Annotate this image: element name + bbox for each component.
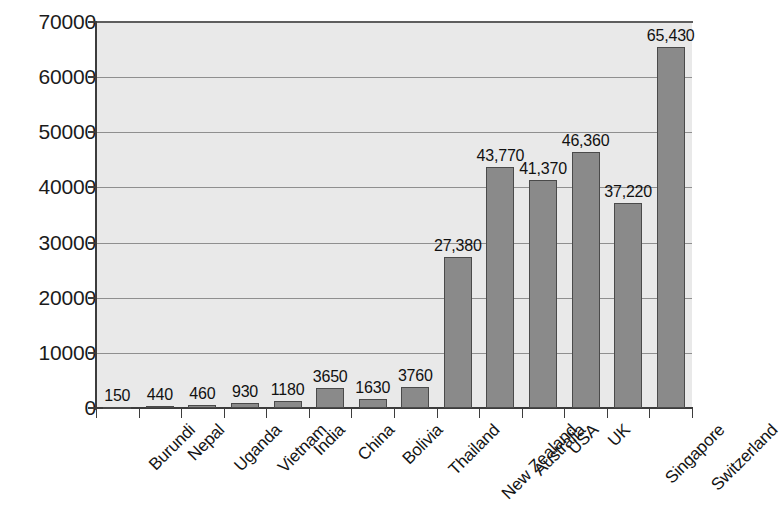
gridline <box>96 77 692 78</box>
bar <box>529 180 557 408</box>
bar <box>657 47 685 408</box>
x-axis-tick-mark <box>394 409 395 418</box>
bar <box>401 387 429 408</box>
x-axis-tick-mark <box>96 409 97 418</box>
gridline <box>96 298 692 299</box>
x-axis-tick-mark <box>564 409 565 418</box>
y-axis-line <box>95 21 97 410</box>
x-axis-label: Bolivia <box>399 421 446 468</box>
x-axis-tick-mark <box>139 409 140 418</box>
bar <box>614 203 642 408</box>
bar <box>146 406 174 408</box>
x-axis-label: Thailand <box>446 421 504 479</box>
x-axis-tick-mark <box>181 409 182 418</box>
x-axis-tick-mark <box>224 409 225 418</box>
x-axis-tick-mark <box>607 409 608 418</box>
bar-value-label: 3760 <box>380 367 450 384</box>
x-axis-tick-mark <box>649 409 650 418</box>
x-axis-tick-mark <box>522 409 523 418</box>
bar-value-label: 41,370 <box>508 160 578 177</box>
plot-top-border <box>96 21 693 23</box>
bar <box>359 399 387 408</box>
bar-value-label: 46,360 <box>551 132 621 149</box>
bar-value-label: 65,430 <box>636 27 706 44</box>
gridline <box>96 243 692 244</box>
bar <box>444 257 472 408</box>
plot-area <box>96 22 692 408</box>
bar <box>188 405 216 408</box>
x-axis-label: China <box>355 421 398 464</box>
gridline <box>96 353 692 354</box>
x-axis-tick-mark <box>351 409 352 418</box>
bar-value-label: 37,220 <box>593 183 663 200</box>
bar-value-label: 27,380 <box>423 237 493 254</box>
y-axis-tick-label: 70000 <box>8 11 96 32</box>
y-axis-tick-label: 10000 <box>8 342 96 363</box>
x-axis-tick-mark <box>309 409 310 418</box>
bar <box>231 403 259 408</box>
y-axis: 010000200003000040000500006000070000 <box>0 0 96 420</box>
x-axis-tick-mark <box>479 409 480 418</box>
y-axis-tick-label: 20000 <box>8 287 96 308</box>
y-axis-tick-label: 60000 <box>8 66 96 87</box>
bar <box>103 407 131 409</box>
x-axis-tick-mark <box>266 409 267 418</box>
y-axis-tick-label: 50000 <box>8 121 96 142</box>
x-axis-tick-mark <box>437 409 438 418</box>
x-axis-tick-mark <box>692 409 693 418</box>
bar <box>274 401 302 408</box>
x-axis-label: UK <box>604 421 633 450</box>
bar <box>486 167 514 408</box>
y-axis-tick-label: 40000 <box>8 176 96 197</box>
y-axis-tick-label: 30000 <box>8 232 96 253</box>
